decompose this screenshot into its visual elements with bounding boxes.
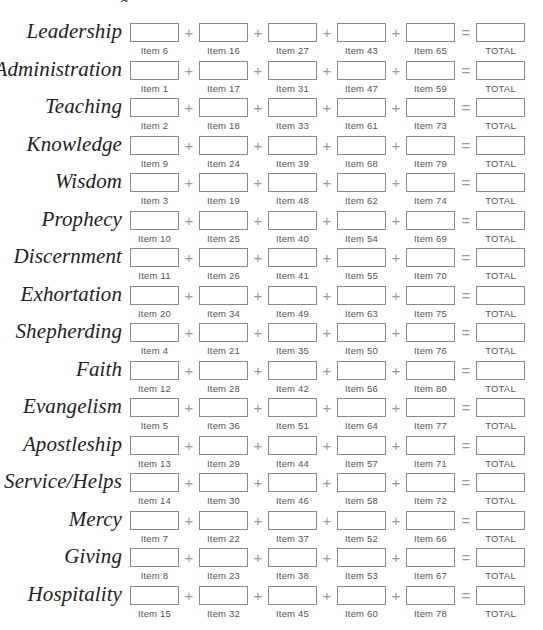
item-score-input[interactable] (199, 586, 248, 605)
item-number-label: Item 72 (406, 495, 455, 506)
total-score-input[interactable] (476, 173, 525, 192)
item-score-input[interactable] (268, 361, 317, 380)
item-score-input[interactable] (199, 473, 248, 492)
total-score-input[interactable] (476, 136, 525, 155)
item-score-input[interactable] (337, 361, 386, 380)
item-score-input[interactable] (268, 548, 317, 567)
item-score-input[interactable] (337, 548, 386, 567)
item-score-input[interactable] (406, 136, 455, 155)
item-score-input[interactable] (268, 323, 317, 342)
item-score-input[interactable] (337, 323, 386, 342)
item-score-input[interactable] (199, 98, 248, 117)
total-cell: TOTAL (476, 173, 525, 206)
item-score-input[interactable] (268, 398, 317, 417)
total-score-input[interactable] (476, 211, 525, 230)
item-score-input[interactable] (130, 173, 179, 192)
item-score-input[interactable] (130, 23, 179, 42)
total-score-input[interactable] (476, 436, 525, 455)
item-score-input[interactable] (337, 136, 386, 155)
item-score-input[interactable] (268, 173, 317, 192)
item-score-input[interactable] (199, 436, 248, 455)
item-score-input[interactable] (337, 23, 386, 42)
item-score-input[interactable] (199, 286, 248, 305)
total-score-input[interactable] (476, 398, 525, 417)
item-score-input[interactable] (268, 586, 317, 605)
item-score-input[interactable] (268, 473, 317, 492)
total-score-input[interactable] (476, 586, 525, 605)
item-score-input[interactable] (130, 286, 179, 305)
item-score-input[interactable] (199, 323, 248, 342)
item-score-input[interactable] (268, 23, 317, 42)
item-score-input[interactable] (337, 98, 386, 117)
item-score-input[interactable] (406, 98, 455, 117)
item-score-input[interactable] (130, 61, 179, 80)
item-score-input[interactable] (268, 511, 317, 530)
item-score-input[interactable] (130, 361, 179, 380)
item-number-label: Item 49 (268, 308, 317, 319)
item-score-input[interactable] (199, 23, 248, 42)
item-score-input[interactable] (406, 436, 455, 455)
item-score-input[interactable] (199, 136, 248, 155)
item-score-input[interactable] (406, 23, 455, 42)
total-score-input[interactable] (476, 548, 525, 567)
item-score-input[interactable] (337, 248, 386, 267)
item-score-input[interactable] (268, 248, 317, 267)
item-score-input[interactable] (337, 436, 386, 455)
item-score-input[interactable] (406, 398, 455, 417)
item-score-input[interactable] (199, 361, 248, 380)
item-score-input[interactable] (406, 248, 455, 267)
item-score-input[interactable] (268, 98, 317, 117)
item-score-input[interactable] (406, 173, 455, 192)
item-score-input[interactable] (199, 511, 248, 530)
equals-sign-icon: = (456, 211, 476, 230)
item-score-input[interactable] (268, 136, 317, 155)
item-score-input[interactable] (406, 586, 455, 605)
item-score-input[interactable] (130, 586, 179, 605)
item-score-input[interactable] (268, 436, 317, 455)
item-score-input[interactable] (130, 136, 179, 155)
item-score-input[interactable] (406, 61, 455, 80)
item-score-input[interactable] (130, 473, 179, 492)
total-score-input[interactable] (476, 248, 525, 267)
item-score-input[interactable] (337, 398, 386, 417)
item-score-input[interactable] (406, 511, 455, 530)
item-score-input[interactable] (199, 211, 248, 230)
item-score-input[interactable] (406, 286, 455, 305)
item-score-input[interactable] (130, 211, 179, 230)
item-score-input[interactable] (337, 286, 386, 305)
item-score-input[interactable] (130, 98, 179, 117)
total-score-input[interactable] (476, 361, 525, 380)
item-score-input[interactable] (337, 586, 386, 605)
item-score-input[interactable] (199, 548, 248, 567)
total-score-input[interactable] (476, 23, 525, 42)
item-score-input[interactable] (130, 511, 179, 530)
item-score-input[interactable] (406, 323, 455, 342)
total-score-input[interactable] (476, 286, 525, 305)
item-score-input[interactable] (130, 398, 179, 417)
item-score-input[interactable] (337, 61, 386, 80)
item-score-input[interactable] (130, 323, 179, 342)
item-score-input[interactable] (406, 548, 455, 567)
item-score-input[interactable] (337, 473, 386, 492)
item-score-input[interactable] (199, 61, 248, 80)
item-score-input[interactable] (337, 211, 386, 230)
total-score-input[interactable] (476, 473, 525, 492)
item-score-input[interactable] (406, 361, 455, 380)
item-score-input[interactable] (130, 436, 179, 455)
item-score-input[interactable] (337, 173, 386, 192)
item-score-input[interactable] (268, 61, 317, 80)
item-score-input[interactable] (199, 398, 248, 417)
item-score-input[interactable] (130, 548, 179, 567)
item-score-input[interactable] (406, 473, 455, 492)
total-score-input[interactable] (476, 511, 525, 530)
item-score-input[interactable] (199, 248, 248, 267)
total-score-input[interactable] (476, 98, 525, 117)
item-score-input[interactable] (199, 173, 248, 192)
item-score-input[interactable] (268, 286, 317, 305)
item-score-input[interactable] (337, 511, 386, 530)
item-score-input[interactable] (268, 211, 317, 230)
total-score-input[interactable] (476, 61, 525, 80)
total-score-input[interactable] (476, 323, 525, 342)
item-score-input[interactable] (406, 211, 455, 230)
item-score-input[interactable] (130, 248, 179, 267)
